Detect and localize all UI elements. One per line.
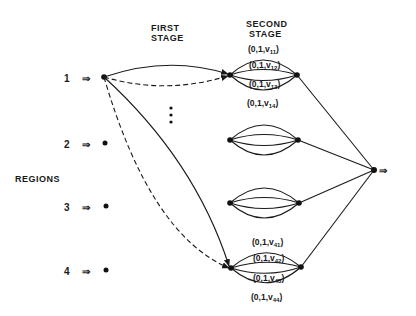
second-stage-header-line2: STAGE	[249, 29, 282, 39]
region-2-label: 2	[64, 139, 70, 150]
input-arrow-icon: ⇒	[82, 73, 91, 84]
edge-label-v44: (0,1,v44)	[251, 292, 282, 303]
region-3-node	[104, 204, 109, 209]
edge-label-v43: (0,1,v43)	[253, 273, 284, 284]
region-4-label: 4	[64, 266, 70, 277]
sink-edge-cluster-1	[297, 75, 374, 170]
edge-label-v41: (0,1,v41)	[252, 237, 283, 248]
first-stage-edge-1-to-cluster1-dashed	[104, 76, 228, 86]
region-2-node	[103, 141, 108, 146]
first-stage-header-line1: FIRST	[151, 23, 180, 33]
edge-label-v14: (0,1,v14)	[247, 98, 278, 109]
region-1-label: 1	[64, 73, 70, 84]
first-stage-edge-1-to-cluster4-dashed	[104, 77, 229, 268]
region-2: 2 ⇒	[64, 139, 108, 150]
stage2-cluster-3	[227, 188, 302, 218]
ellipsis-dots	[169, 106, 172, 123]
output-arrow-icon: ⇒	[379, 165, 388, 176]
regions-label: REGIONS	[15, 174, 60, 184]
input-arrow-icon: ⇒	[82, 202, 91, 213]
region-3: 3 ⇒	[64, 202, 109, 213]
sink-edge-cluster-3	[299, 170, 374, 203]
two-stage-network-diagram: FIRST STAGE SECOND STAGE REGIONS 1 ⇒ 2 ⇒…	[0, 0, 416, 316]
second-stage-header-line1: SECOND	[246, 19, 288, 29]
output-sink-node	[371, 167, 377, 173]
sink-edge-cluster-2	[298, 140, 374, 170]
first-stage-edge-1-to-cluster4-solid	[104, 77, 229, 266]
input-arrow-icon: ⇒	[82, 139, 91, 150]
first-stage-header-line2: STAGE	[151, 33, 184, 43]
first-stage-edge-1-to-cluster1-solid	[104, 65, 228, 77]
sink-edge-cluster-4	[301, 170, 374, 267]
region-4-node	[104, 268, 109, 273]
region-3-label: 3	[64, 202, 70, 213]
edge-label-v11: (0,1,v11)	[248, 44, 279, 55]
region-4: 4 ⇒	[64, 266, 109, 277]
region-1: 1 ⇒	[64, 73, 107, 84]
input-arrow-icon: ⇒	[82, 266, 91, 277]
stage2-cluster-2	[227, 125, 301, 155]
edge-label-v13: (0,1,v13)	[249, 79, 280, 90]
